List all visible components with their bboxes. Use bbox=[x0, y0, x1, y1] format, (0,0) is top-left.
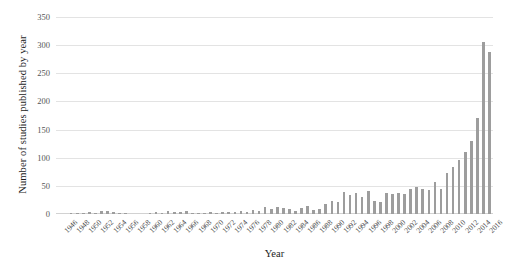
bar bbox=[282, 208, 285, 214]
bar bbox=[70, 213, 73, 214]
bar bbox=[88, 212, 91, 214]
bar bbox=[464, 152, 467, 214]
bar-chart: Number of studies published by year 0501… bbox=[0, 0, 513, 271]
bar bbox=[428, 190, 431, 214]
bar bbox=[294, 211, 297, 214]
bar bbox=[379, 202, 382, 214]
bar bbox=[106, 211, 109, 214]
bar bbox=[324, 204, 327, 214]
bar bbox=[300, 208, 303, 214]
bar bbox=[246, 212, 249, 214]
bar bbox=[421, 189, 424, 214]
bar bbox=[476, 118, 479, 214]
y-axis-tick-label: 250 bbox=[6, 68, 50, 78]
bar bbox=[415, 187, 418, 214]
bar bbox=[197, 213, 200, 214]
bar bbox=[397, 193, 400, 214]
bar bbox=[270, 209, 273, 214]
bar bbox=[76, 213, 79, 214]
bar bbox=[470, 141, 473, 214]
plot-area bbox=[56, 17, 493, 214]
bar bbox=[234, 212, 237, 214]
bar bbox=[367, 191, 370, 214]
bar bbox=[227, 212, 230, 214]
bar bbox=[161, 213, 164, 214]
bar bbox=[434, 182, 437, 214]
bar-series bbox=[56, 17, 493, 214]
bar bbox=[94, 213, 97, 214]
bar bbox=[221, 212, 224, 214]
bar bbox=[276, 207, 279, 214]
bar bbox=[403, 194, 406, 214]
y-axis-tick-label: 150 bbox=[6, 125, 50, 135]
bar bbox=[155, 212, 158, 214]
bar bbox=[112, 212, 115, 214]
y-axis-tick-label: 50 bbox=[6, 181, 50, 191]
bar bbox=[100, 211, 103, 214]
bar bbox=[124, 213, 127, 214]
bar bbox=[179, 212, 182, 214]
bar bbox=[258, 211, 261, 214]
bar bbox=[446, 173, 449, 214]
bar bbox=[373, 201, 376, 215]
bar bbox=[306, 206, 309, 214]
x-axis-tick-label: 2016 bbox=[487, 218, 504, 235]
bar bbox=[391, 194, 394, 214]
y-axis-tick-label: 100 bbox=[6, 153, 50, 163]
y-axis-tick-labels: 050100150200250300350 bbox=[0, 17, 50, 214]
y-axis-tick-label: 300 bbox=[6, 40, 50, 50]
bar bbox=[288, 209, 291, 214]
bar bbox=[337, 202, 340, 214]
y-axis-tick-label: 0 bbox=[6, 209, 50, 219]
bar bbox=[185, 211, 188, 214]
bar bbox=[318, 209, 321, 214]
bar bbox=[331, 201, 334, 215]
bar bbox=[191, 213, 194, 214]
bar bbox=[240, 211, 243, 214]
bar bbox=[209, 212, 212, 214]
bar bbox=[409, 189, 412, 214]
bar bbox=[173, 212, 176, 214]
bar bbox=[452, 167, 455, 214]
y-axis-tick-label: 200 bbox=[6, 96, 50, 106]
bar bbox=[167, 211, 170, 214]
bar bbox=[482, 42, 485, 214]
bar bbox=[488, 52, 491, 214]
bar bbox=[252, 210, 255, 214]
bar bbox=[118, 213, 121, 214]
x-axis-title: Year bbox=[56, 248, 493, 259]
bar bbox=[203, 213, 206, 214]
x-axis-tick-labels: 1946194819501952195419561958196019621964… bbox=[56, 216, 493, 250]
bar bbox=[215, 213, 218, 214]
bar bbox=[312, 210, 315, 214]
bar bbox=[458, 160, 461, 214]
bar bbox=[149, 213, 152, 214]
bar bbox=[264, 207, 267, 214]
bar-slot bbox=[486, 17, 492, 214]
bar bbox=[440, 189, 443, 214]
bar bbox=[385, 193, 388, 214]
bar bbox=[343, 192, 346, 214]
bar bbox=[82, 213, 85, 214]
bar bbox=[349, 195, 352, 214]
bar bbox=[355, 193, 358, 214]
y-axis-tick-label: 350 bbox=[6, 12, 50, 22]
bar bbox=[361, 197, 364, 214]
